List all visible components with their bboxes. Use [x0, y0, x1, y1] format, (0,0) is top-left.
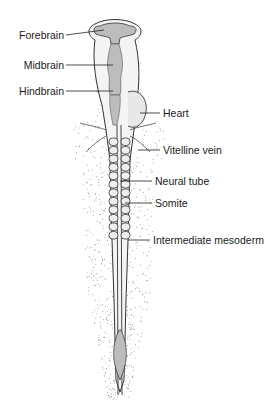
stipple-dot — [134, 283, 135, 284]
stipple-dot — [127, 356, 128, 357]
stipple-dot — [103, 228, 104, 229]
stipple-dot — [109, 378, 110, 379]
stipple-dot — [143, 192, 144, 193]
stipple-dot — [100, 204, 101, 205]
somite-left — [109, 138, 118, 146]
stipple-dot — [130, 324, 131, 325]
somite-left — [109, 155, 118, 163]
stipple-dot — [138, 347, 139, 348]
stipple-dot — [135, 288, 136, 289]
stipple-dot — [126, 375, 127, 376]
stipple-dot — [84, 208, 85, 209]
stipple-dot — [129, 322, 130, 323]
stipple-dot — [112, 388, 113, 389]
stipple-dot — [99, 222, 100, 223]
stipple-dot — [110, 374, 111, 375]
stipple-dot — [95, 250, 96, 251]
stipple-dot — [128, 377, 129, 378]
stipple-dot — [87, 189, 88, 190]
stipple-dot — [127, 388, 128, 389]
stipple-dot — [136, 166, 137, 167]
stipple-dot — [131, 291, 132, 292]
stipple-dot — [134, 207, 135, 208]
stipple-dot — [106, 149, 107, 150]
stipple-dot — [131, 309, 132, 310]
stipple-dot — [95, 194, 96, 195]
stipple-dot — [105, 185, 106, 186]
stipple-dot — [112, 271, 113, 272]
stipple-dot — [126, 387, 127, 388]
stipple-dot — [76, 152, 77, 153]
stipple-dot — [74, 129, 75, 130]
stipple-dot — [105, 381, 106, 382]
stipple-dot — [140, 245, 141, 246]
stipple-dot — [102, 172, 103, 173]
stipple-dot — [142, 274, 143, 275]
stipple-dot — [127, 306, 128, 307]
stipple-dot — [91, 247, 92, 248]
stipple-dot — [83, 125, 84, 126]
stipple-dot — [110, 312, 111, 313]
stipple-dot — [95, 127, 96, 128]
stipple-dot — [110, 396, 111, 397]
stipple-dot — [98, 284, 99, 285]
stipple-dot — [93, 267, 94, 268]
stipple-dot — [143, 308, 144, 309]
stipple-dot — [100, 169, 101, 170]
stipple-dot — [111, 355, 112, 356]
stipple-dot — [96, 199, 97, 200]
stipple-dot — [79, 127, 80, 128]
stipple-dot — [99, 214, 100, 215]
stipple-dot — [140, 235, 141, 236]
stipple-dot — [108, 395, 109, 396]
stipple-dot — [141, 206, 142, 207]
stipple-dot — [95, 259, 96, 260]
stipple-dot — [102, 367, 103, 368]
heart-shape — [128, 91, 146, 127]
stipple-dot — [135, 206, 136, 207]
stipple-dot — [87, 276, 88, 277]
stipple-dot — [101, 264, 102, 265]
stipple-dot — [151, 261, 152, 262]
stipple-dot — [139, 190, 140, 191]
stipple-dot — [129, 254, 130, 255]
stipple-dot — [156, 148, 157, 149]
stipple-dot — [153, 206, 154, 207]
stipple-dot — [109, 358, 110, 359]
somite-left — [109, 172, 118, 180]
stipple-dot — [87, 277, 88, 278]
stipple-dot — [131, 334, 132, 335]
stipple-dot — [98, 243, 99, 244]
stipple-dot — [145, 198, 146, 199]
stipple-dot — [135, 258, 136, 259]
stipple-dot — [114, 380, 115, 381]
stipple-dot — [141, 321, 142, 322]
stipple-dot — [100, 317, 101, 318]
stipple-dot — [107, 320, 108, 321]
stipple-dot — [130, 372, 131, 373]
stipple-dot — [146, 280, 147, 281]
stipple-dot — [109, 342, 110, 343]
stipple-dot — [100, 222, 101, 223]
stipple-dot — [127, 355, 128, 356]
stipple-dot — [105, 363, 106, 364]
stipple-dot — [147, 229, 148, 230]
stipple-dot — [101, 263, 102, 264]
stipple-dot — [97, 280, 98, 281]
stipple-dot — [129, 380, 130, 381]
stipple-dot — [142, 293, 143, 294]
stipple-dot — [111, 320, 112, 321]
somite-left — [109, 232, 118, 240]
stipple-dot — [136, 197, 137, 198]
stipple-dot — [108, 244, 109, 245]
stipple-dot — [99, 194, 100, 195]
stipple-dot — [95, 264, 96, 265]
stipple-dot — [86, 136, 87, 137]
stipple-dot — [88, 294, 89, 295]
stipple-dot — [107, 392, 108, 393]
somite-right — [121, 164, 130, 172]
stipple-dot — [137, 334, 138, 335]
stipple-dot — [92, 270, 93, 271]
stipple-dot — [132, 376, 133, 377]
stipple-dot — [89, 256, 90, 257]
